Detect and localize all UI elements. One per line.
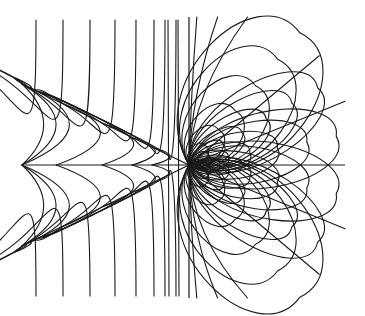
field-line-figure bbox=[0, 0, 365, 316]
left-outer-curve bbox=[37, 20, 136, 141]
left-outer-curve bbox=[40, 181, 154, 296]
left-outer-curve bbox=[0, 209, 63, 296]
left-inner-arc bbox=[22, 84, 69, 165]
left-vertical-line bbox=[168, 20, 169, 296]
right-ray bbox=[189, 56, 319, 165]
left-outer-curve bbox=[0, 20, 36, 114]
left-outer-curve bbox=[37, 188, 136, 296]
left-outer-curve bbox=[34, 20, 115, 134]
left-outer-curve bbox=[0, 20, 63, 119]
right-ray bbox=[189, 165, 319, 274]
left-vertical-line bbox=[178, 20, 179, 296]
left-outer-curve bbox=[0, 214, 36, 296]
left-inner-arc bbox=[132, 138, 155, 165]
left-inner-arc bbox=[132, 165, 155, 192]
field-line-diagram bbox=[0, 0, 365, 316]
left-curve-family bbox=[0, 20, 179, 296]
left-outer-curve bbox=[41, 176, 165, 296]
